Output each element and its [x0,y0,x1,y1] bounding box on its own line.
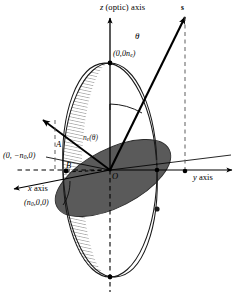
x-intercept-label: (n0,0,0) [24,199,49,208]
negative-y-intercept-label: (0, −n0,0) [3,152,35,161]
theta-label: θ [135,32,140,41]
z-axis-label: z(optic) axis [100,3,145,12]
x-axis-label-symbol: x [28,183,32,193]
ne-arg: (θ) [89,133,98,142]
neg-y-text: (0, −n [3,151,24,160]
x-intercept-close: ,0,0) [34,198,49,207]
z-axis-label-symbol: z [100,2,103,12]
s-vector-label: s [181,4,184,12]
marker-z-bottom [108,275,113,280]
z-axis-label-rest: (optic) axis [105,2,145,12]
z-intercept-text: (0,0n [113,49,130,58]
marker-y-far-right [183,169,188,174]
x-axis-label: xaxis [28,184,48,193]
theta-angle-arc [110,104,142,113]
z-intercept-close: ) [133,49,136,58]
origin-O-label: O [112,172,118,181]
x-axis-label-rest: axis [34,183,48,193]
neg-y-close: ,0) [27,151,36,160]
y-axis-label-symbol: y [193,172,197,182]
index-ellipse-label: ne(θ) [83,134,98,142]
marker-z-intercept [108,61,113,66]
point-B-label: B [66,161,71,170]
index-ellipsoid-figure: z(optic) axis s θ (0,0ne) ne(θ) A B O (0… [0,0,240,301]
y-axis-label: yaxis [193,173,213,182]
marker-y-right [155,168,160,173]
y-axis-label-rest: axis [199,172,213,182]
point-A-label: A [56,140,61,149]
x-intercept-text: (n [24,198,31,207]
figure-canvas [0,0,240,301]
z-intercept-label: (0,0ne) [113,50,135,59]
marker-ellipse-lower-right [154,206,159,211]
